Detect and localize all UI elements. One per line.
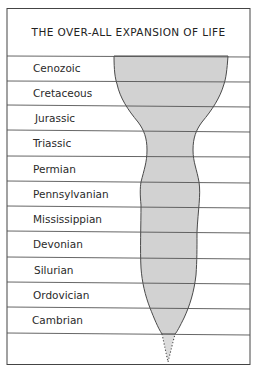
period-label-permian: Permian <box>33 157 76 182</box>
life-expansion-spindle <box>114 56 228 334</box>
period-label-devonian: Devonian <box>33 232 83 257</box>
period-label-jurassic: Jurassic <box>35 106 75 131</box>
period-label-ordovician: Ordovician <box>33 283 89 308</box>
period-label-cambrian: Cambrian <box>32 308 83 333</box>
dotted-tail <box>162 334 175 362</box>
period-label-cretaceous: Cretaceous <box>33 81 92 106</box>
period-label-mississippian: Mississippian <box>33 207 102 232</box>
period-label-pennsylvanian: Pennsylvanian <box>33 182 109 207</box>
diagram-title: THE OVER-ALL EXPANSION OF LIFE <box>7 8 250 56</box>
period-label-triassic: Triassic <box>33 131 71 156</box>
period-label-cenozoic: Cenozoic <box>33 56 81 81</box>
period-label-silurian: Silurian <box>34 258 73 283</box>
